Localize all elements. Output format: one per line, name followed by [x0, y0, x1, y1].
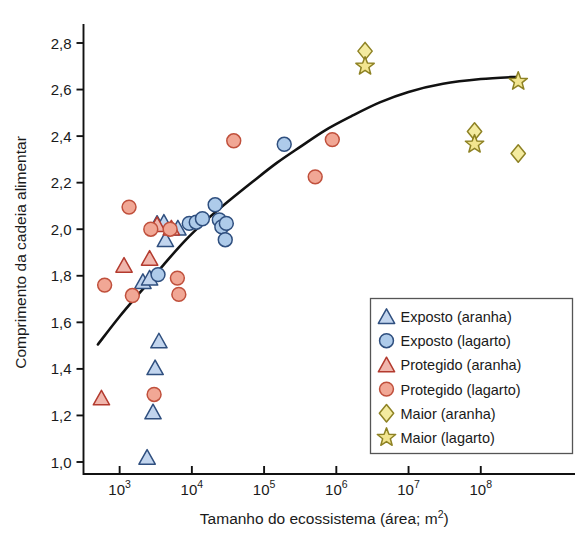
data-point-triangle — [141, 251, 157, 266]
data-point-star — [356, 57, 374, 74]
x-tick-label: 104 — [181, 478, 204, 498]
x-tick-label: 108 — [470, 478, 493, 498]
x-tick-label: 107 — [397, 478, 420, 498]
data-point-triangle — [147, 360, 163, 375]
legend-label: Exposto (lagarto) — [401, 333, 511, 349]
data-point-circle — [163, 222, 177, 236]
data-point-circle — [218, 233, 232, 247]
legend-label: Maior (aranha) — [401, 406, 496, 422]
y-axis-title: Comprimento da cadeia alimentar — [12, 136, 29, 369]
legend-label: Protegido (aranha) — [401, 357, 522, 373]
data-point-circle — [151, 268, 165, 282]
y-tick-label: 1,2 — [51, 407, 72, 424]
data-point-triangle — [151, 333, 167, 348]
legend-label: Protegido (lagarto) — [401, 382, 521, 398]
legend-item-protegido-aranha[interactable]: Protegido (aranha) — [378, 357, 521, 373]
scatter-plot-figure: 1,01,21,41,61,82,02,22,42,62,81031041051… — [0, 0, 582, 544]
data-point-circle — [98, 278, 112, 292]
data-point-star — [509, 72, 527, 89]
data-point-circle — [195, 212, 209, 226]
legend-label: Maior (lagarto) — [401, 430, 495, 446]
data-point-circle — [147, 388, 161, 402]
data-point-circle — [170, 271, 184, 285]
data-point-triangle — [145, 404, 161, 419]
y-tick-label: 2,8 — [51, 35, 72, 52]
data-point-diamond — [511, 145, 525, 162]
y-tick-label: 1,4 — [51, 360, 72, 377]
chart-legend: Exposto (aranha)Exposto (lagarto)Protegi… — [371, 299, 573, 454]
y-tick-label: 2,4 — [51, 128, 72, 145]
x-tick-label: 105 — [253, 478, 276, 498]
legend-item-protegido-lagarto[interactable]: Protegido (lagarto) — [380, 382, 521, 398]
legend-marker-circle — [380, 334, 394, 348]
data-point-triangle — [139, 450, 155, 465]
data-point-circle — [172, 287, 186, 301]
series-exposto-lagarto — [151, 137, 291, 281]
x-tick-label: 106 — [325, 478, 348, 498]
y-tick-label: 2,6 — [51, 81, 72, 98]
data-point-circle — [325, 133, 339, 147]
x-tick-label: 103 — [108, 478, 131, 498]
data-point-triangle — [116, 258, 132, 273]
data-point-circle — [219, 216, 233, 230]
y-tick-label: 1,6 — [51, 314, 72, 331]
data-point-circle — [122, 200, 136, 214]
legend-marker-circle — [380, 382, 394, 396]
data-point-triangle — [93, 390, 109, 405]
y-tick-label: 1,0 — [51, 454, 72, 471]
data-point-circle — [208, 198, 222, 212]
series-protegido-lagarto — [98, 133, 340, 402]
data-point-circle — [277, 137, 291, 151]
series-maior-lagarto — [356, 57, 527, 152]
chart-canvas: 1,01,21,41,61,82,02,22,42,62,81031041051… — [0, 0, 582, 544]
y-tick-label: 1,8 — [51, 267, 72, 284]
data-point-circle — [144, 222, 158, 236]
legend-label: Exposto (aranha) — [401, 309, 512, 325]
data-point-star — [465, 135, 483, 152]
y-tick-label: 2,0 — [51, 221, 72, 238]
data-point-circle — [308, 170, 322, 184]
x-axis-title: Tamanho do ecossistema (área; m2) — [200, 508, 449, 527]
data-point-circle — [227, 134, 241, 148]
y-tick-label: 2,2 — [51, 174, 72, 191]
data-point-circle — [125, 289, 139, 303]
series-exposto-aranha — [135, 215, 186, 465]
